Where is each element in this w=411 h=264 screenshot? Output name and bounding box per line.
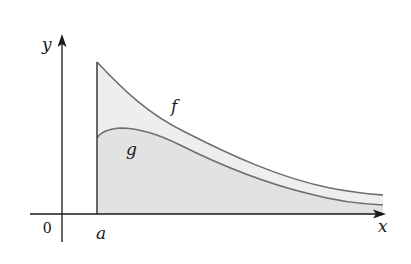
area-between-curves-diagram: y x 0 a f g [0, 0, 411, 264]
curve-g-label: g [126, 139, 137, 159]
curve-f-label: f [169, 96, 180, 116]
origin-label: 0 [43, 218, 52, 237]
x-axis-label: x [378, 216, 388, 236]
a-label: a [96, 223, 106, 243]
y-axis-label: y [41, 34, 52, 54]
